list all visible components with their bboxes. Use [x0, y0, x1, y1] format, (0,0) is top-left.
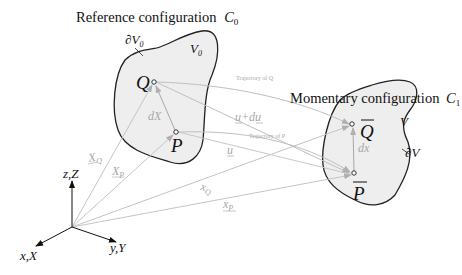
- reference-title: Reference configuration C0: [76, 9, 239, 27]
- x-axis-label: x,X: [19, 248, 38, 263]
- coordinate-axes: [36, 181, 116, 246]
- momentary-q-label: Q: [360, 121, 374, 142]
- X-P-label: XP: [111, 164, 124, 180]
- reference-q-label: Q: [136, 72, 150, 93]
- y-axis-label: y,Y: [108, 240, 127, 255]
- dx-label: dx: [358, 141, 370, 155]
- momentary-p-label: P: [352, 183, 365, 204]
- momentary-title: Momentary configuration C1: [290, 90, 460, 108]
- reference-p-label: P: [170, 135, 183, 156]
- reference-body: [114, 31, 217, 164]
- x-P-label: xP: [222, 197, 233, 213]
- u-label: u: [227, 143, 233, 157]
- point-p-reference: [174, 130, 178, 134]
- x-Q-label: xQ: [198, 179, 213, 197]
- continuum-deformation-diagram: Reference configuration C0 Momentary con…: [0, 0, 462, 275]
- reference-boundary-label: ∂V0: [125, 32, 143, 49]
- point-q-momentary: [350, 122, 354, 126]
- trajectory-p-label: Trajectory of P: [249, 133, 286, 139]
- point-q-reference: [152, 80, 156, 84]
- u-plus-du-label: u+du: [235, 110, 261, 124]
- dX-label: dX: [148, 109, 162, 123]
- trajectory-q-label: Trajectory of Q: [236, 75, 274, 81]
- momentary-volume-label: V: [400, 114, 410, 129]
- X-Q-label: XQ: [86, 149, 103, 167]
- z-axis-label: z,Z: [62, 166, 79, 181]
- point-p-momentary: [352, 171, 356, 175]
